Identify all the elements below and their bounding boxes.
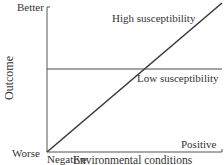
x-axis-label: Environmental conditions <box>73 154 192 165</box>
x-tick-positive: Positive <box>181 138 216 150</box>
y-axis-label: Outcome <box>2 56 17 100</box>
y-tick-better: Better <box>17 1 44 13</box>
low-susceptibility-label: Low susceptibility <box>137 72 219 84</box>
y-tick-worse: Worse <box>12 147 40 159</box>
high-susceptibility-label: High susceptibility <box>112 12 195 24</box>
